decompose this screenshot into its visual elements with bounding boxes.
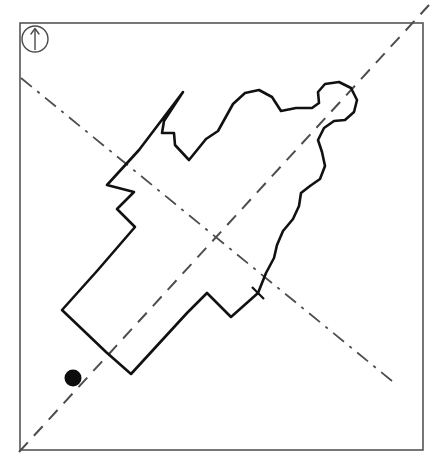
- figure-canvas: [0, 0, 442, 459]
- figure-container: [0, 0, 442, 459]
- origin-dot-marker: [65, 370, 82, 387]
- figure-background: [0, 0, 442, 459]
